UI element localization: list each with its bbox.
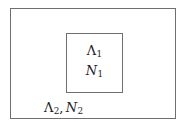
outer-n-subscript: 2	[77, 106, 83, 116]
lambda-symbol: Λ	[87, 43, 96, 58]
outer-lambda-symbol: Λ	[44, 100, 53, 115]
n-subscript: 1	[97, 69, 103, 79]
outer-lambda-subscript: 2	[53, 106, 59, 116]
lambda-subscript: 1	[96, 49, 102, 59]
inner-region-n-label: N1	[66, 64, 123, 77]
inner-region-lambda-label: Λ1	[66, 44, 123, 57]
outer-region-label: Λ2,N2	[44, 101, 83, 114]
n-symbol: N	[86, 63, 97, 78]
outer-n-symbol: N	[66, 100, 77, 115]
figure-root: Λ1 N1 Λ2,N2	[0, 0, 186, 128]
